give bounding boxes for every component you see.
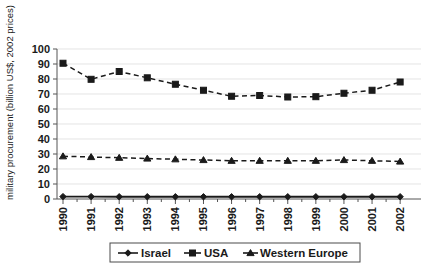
y-tick-label: 0: [44, 193, 50, 205]
y-tick-label: 90: [38, 58, 50, 70]
x-tick-label: 1993: [141, 207, 153, 231]
x-tick-label: 1994: [169, 206, 181, 231]
y-axis-title: military procurement (billion US$, 2002 …: [4, 5, 15, 200]
legend-label: Western Europe: [260, 247, 348, 259]
data-point-marker: [229, 93, 235, 99]
y-tick-label: 40: [38, 133, 50, 145]
data-point-marker: [285, 94, 291, 100]
y-tick-label: 70: [38, 88, 50, 100]
x-tick-label: 1999: [310, 207, 322, 231]
data-point-marker: [88, 76, 94, 82]
x-tick-label: 2002: [394, 207, 406, 231]
y-tick-label: 100: [32, 43, 50, 55]
data-point-marker: [116, 69, 122, 75]
y-tick-label: 50: [38, 118, 50, 130]
data-point-marker: [200, 87, 206, 93]
x-tick-label: 1991: [85, 207, 97, 231]
data-point-marker: [190, 250, 196, 256]
y-tick-label: 60: [38, 103, 50, 115]
x-tick-label: 1997: [254, 207, 266, 231]
data-point-marker: [341, 90, 347, 96]
y-tick-label: 20: [38, 163, 50, 175]
chart-container: military procurement (billion US$, 2002 …: [0, 0, 431, 271]
x-tick-label: 1995: [197, 207, 209, 231]
data-point-marker: [172, 81, 178, 87]
legend-label: USA: [204, 247, 228, 259]
x-tick-label: 1998: [282, 207, 294, 231]
data-point-marker: [144, 75, 150, 81]
y-tick-label: 80: [38, 73, 50, 85]
data-point-marker: [369, 87, 375, 93]
line-chart: military procurement (billion US$, 2002 …: [0, 0, 431, 271]
x-tick-label: 1992: [113, 207, 125, 231]
legend-label: Israel: [141, 247, 171, 259]
x-tick-label: 2001: [366, 207, 378, 231]
y-tick-label: 30: [38, 148, 50, 160]
x-tick-label: 1990: [57, 207, 69, 231]
x-tick-label: 1996: [226, 207, 238, 231]
data-point-marker: [397, 79, 403, 85]
data-point-marker: [257, 93, 263, 99]
x-tick-label: 2000: [338, 207, 350, 231]
data-point-marker: [60, 60, 66, 66]
data-point-marker: [313, 94, 319, 100]
y-tick-label: 10: [38, 178, 50, 190]
